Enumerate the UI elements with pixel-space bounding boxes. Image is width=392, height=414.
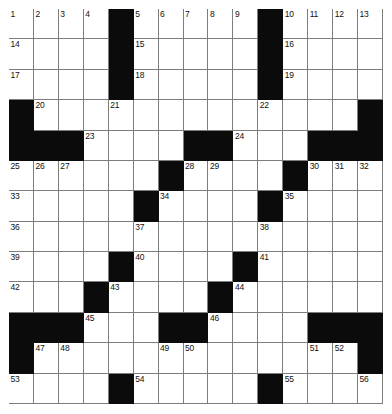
grid-cell[interactable]: 48 — [59, 343, 84, 373]
grid-cell[interactable]: 3 — [59, 9, 84, 39]
grid-cell[interactable] — [308, 222, 333, 252]
grid-cell[interactable] — [159, 100, 184, 130]
grid-cell[interactable] — [109, 222, 134, 252]
grid-cell[interactable] — [159, 39, 184, 69]
grid-cell[interactable]: 43 — [109, 282, 134, 312]
grid-cell[interactable]: 16 — [283, 39, 308, 69]
grid-cell[interactable]: 53 — [9, 374, 34, 404]
grid-cell[interactable] — [233, 313, 258, 343]
grid-cell[interactable]: 52 — [333, 343, 358, 373]
grid-cell[interactable]: 18 — [134, 70, 159, 100]
grid-cell[interactable] — [208, 343, 233, 373]
grid-cell[interactable] — [208, 374, 233, 404]
grid-cell[interactable]: 27 — [59, 161, 84, 191]
grid-cell[interactable] — [333, 100, 358, 130]
grid-cell[interactable] — [109, 131, 134, 161]
grid-cell[interactable] — [184, 222, 209, 252]
grid-cell[interactable]: 7 — [184, 9, 209, 39]
grid-cell[interactable]: 35 — [283, 191, 308, 221]
grid-cell[interactable] — [84, 191, 109, 221]
grid-cell[interactable] — [333, 39, 358, 69]
grid-cell[interactable]: 29 — [208, 161, 233, 191]
grid-cell[interactable]: 20 — [34, 100, 59, 130]
grid-cell[interactable]: 6 — [159, 9, 184, 39]
grid-cell[interactable] — [134, 161, 159, 191]
grid-cell[interactable]: 40 — [134, 252, 159, 282]
grid-cell[interactable] — [333, 282, 358, 312]
grid-cell[interactable] — [283, 222, 308, 252]
grid-cell[interactable] — [208, 39, 233, 69]
grid-cell[interactable]: 2 — [34, 9, 59, 39]
grid-cell[interactable] — [208, 191, 233, 221]
grid-cell[interactable] — [233, 100, 258, 130]
grid-cell[interactable] — [159, 374, 184, 404]
grid-cell[interactable]: 51 — [308, 343, 333, 373]
grid-cell[interactable] — [333, 222, 358, 252]
grid-cell[interactable] — [159, 131, 184, 161]
grid-cell[interactable] — [134, 100, 159, 130]
grid-cell[interactable] — [59, 191, 84, 221]
grid-cell[interactable] — [358, 191, 383, 221]
grid-cell[interactable] — [34, 70, 59, 100]
grid-cell[interactable]: 45 — [84, 313, 109, 343]
grid-cell[interactable] — [109, 343, 134, 373]
grid-cell[interactable] — [134, 131, 159, 161]
grid-cell[interactable]: 21 — [109, 100, 134, 130]
grid-cell[interactable]: 4 — [84, 9, 109, 39]
grid-cell[interactable]: 26 — [34, 161, 59, 191]
grid-cell[interactable]: 38 — [258, 222, 283, 252]
grid-cell[interactable] — [59, 282, 84, 312]
grid-cell[interactable] — [308, 39, 333, 69]
grid-cell[interactable]: 34 — [159, 191, 184, 221]
grid-cell[interactable] — [59, 39, 84, 69]
grid-cell[interactable] — [34, 39, 59, 69]
grid-cell[interactable] — [208, 252, 233, 282]
grid-cell[interactable] — [59, 222, 84, 252]
grid-cell[interactable] — [233, 191, 258, 221]
grid-cell[interactable]: 54 — [134, 374, 159, 404]
grid-cell[interactable]: 47 — [34, 343, 59, 373]
grid-cell[interactable] — [59, 70, 84, 100]
grid-cell[interactable] — [59, 252, 84, 282]
grid-cell[interactable] — [34, 252, 59, 282]
grid-cell[interactable] — [258, 161, 283, 191]
grid-cell[interactable] — [84, 252, 109, 282]
grid-cell[interactable] — [84, 374, 109, 404]
grid-cell[interactable] — [283, 131, 308, 161]
grid-cell[interactable] — [59, 374, 84, 404]
grid-cell[interactable]: 9 — [233, 9, 258, 39]
grid-cell[interactable] — [84, 70, 109, 100]
grid-cell[interactable] — [134, 343, 159, 373]
grid-cell[interactable]: 44 — [233, 282, 258, 312]
grid-cell[interactable] — [184, 70, 209, 100]
grid-cell[interactable] — [333, 70, 358, 100]
grid-cell[interactable]: 14 — [9, 39, 34, 69]
grid-cell[interactable] — [233, 374, 258, 404]
grid-cell[interactable] — [308, 191, 333, 221]
grid-cell[interactable]: 28 — [184, 161, 209, 191]
grid-cell[interactable] — [233, 222, 258, 252]
grid-cell[interactable] — [283, 343, 308, 373]
grid-cell[interactable] — [283, 313, 308, 343]
grid-cell[interactable] — [358, 282, 383, 312]
grid-cell[interactable]: 37 — [134, 222, 159, 252]
grid-cell[interactable] — [159, 282, 184, 312]
grid-cell[interactable] — [34, 191, 59, 221]
grid-cell[interactable] — [233, 343, 258, 373]
grid-cell[interactable] — [208, 222, 233, 252]
grid-cell[interactable]: 32 — [358, 161, 383, 191]
grid-cell[interactable] — [159, 252, 184, 282]
grid-cell[interactable] — [258, 131, 283, 161]
grid-cell[interactable] — [258, 343, 283, 373]
grid-cell[interactable] — [184, 39, 209, 69]
grid-cell[interactable] — [333, 252, 358, 282]
grid-cell[interactable] — [258, 313, 283, 343]
grid-cell[interactable] — [208, 100, 233, 130]
grid-cell[interactable]: 50 — [184, 343, 209, 373]
grid-cell[interactable] — [159, 222, 184, 252]
grid-cell[interactable] — [184, 282, 209, 312]
grid-cell[interactable] — [258, 282, 283, 312]
grid-cell[interactable] — [283, 282, 308, 312]
grid-cell[interactable] — [308, 282, 333, 312]
grid-cell[interactable]: 39 — [9, 252, 34, 282]
